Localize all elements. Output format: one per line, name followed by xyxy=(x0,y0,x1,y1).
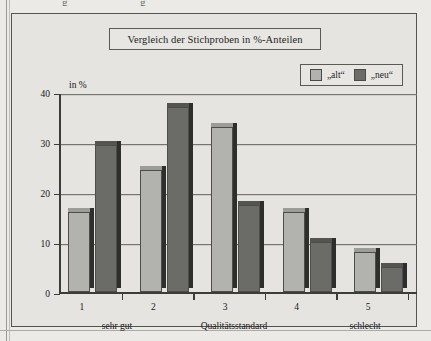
clipped-glyph-1: g xyxy=(62,0,68,6)
ytick-label-10: 10 xyxy=(41,239,51,249)
bar-front-face xyxy=(354,252,376,292)
bar-group xyxy=(68,92,121,292)
legend-label-alt: „alt“ xyxy=(327,70,345,80)
bar-front-face xyxy=(140,170,162,293)
chart-title-box: Vergleich der Stichproben in %-Anteilen xyxy=(109,28,321,50)
bar-alt-2[interactable] xyxy=(140,166,166,293)
xtick-label-2: 2 xyxy=(151,302,156,312)
bar-side-face xyxy=(305,208,309,288)
clipped-text-above: g g xyxy=(0,0,431,6)
bar-side-face xyxy=(162,166,166,289)
bar-group xyxy=(283,92,336,292)
bar-front-face xyxy=(167,107,189,292)
clipped-glyph-2: g xyxy=(140,0,146,6)
legend-swatch-neu-icon xyxy=(354,69,366,81)
bar-front-face xyxy=(283,212,305,292)
ytick-label-0: 0 xyxy=(45,289,50,299)
xtick-label-1: 1 xyxy=(79,302,84,312)
x-caption-right: schlecht xyxy=(349,321,380,331)
x-caption-left: sehr gut xyxy=(102,321,132,331)
bar-group xyxy=(354,92,407,292)
bar-front-face xyxy=(68,212,90,292)
bar-group xyxy=(211,92,264,292)
bar-front-face xyxy=(381,267,403,292)
bar-front-face xyxy=(95,145,117,293)
xtick-label-5: 5 xyxy=(366,302,371,312)
bar-neu-1[interactable] xyxy=(95,141,121,293)
bar-neu-5[interactable] xyxy=(381,263,407,292)
page-margin-rule xyxy=(6,0,7,341)
ytick-mark-0 xyxy=(54,294,60,295)
bar-alt-5[interactable] xyxy=(354,248,380,292)
plot-area: in % 40 30 20 10 0 xyxy=(59,94,417,294)
y-axis-caption: in % xyxy=(69,80,87,90)
x-axis-line xyxy=(59,292,417,294)
bar-side-face xyxy=(332,238,336,288)
bar-neu-2[interactable] xyxy=(167,103,193,292)
ytick-label-20: 20 xyxy=(41,189,51,199)
bar-group xyxy=(140,92,193,292)
bar-alt-3[interactable] xyxy=(211,123,237,292)
xtick-mark-2 xyxy=(193,294,194,300)
legend-item-alt[interactable]: „alt“ xyxy=(310,69,345,81)
bar-front-face xyxy=(310,242,332,292)
bar-side-face xyxy=(376,248,380,288)
ytick-label-40: 40 xyxy=(41,89,51,99)
bars-layer xyxy=(59,94,417,294)
bar-alt-1[interactable] xyxy=(68,208,94,292)
bar-alt-4[interactable] xyxy=(283,208,309,292)
bar-side-face xyxy=(233,123,237,288)
bar-front-face xyxy=(211,127,233,292)
legend-label-neu: „neu“ xyxy=(371,70,393,80)
chart-frame: Vergleich der Stichproben in %-Anteilen … xyxy=(11,13,417,327)
bar-front-face xyxy=(238,205,260,293)
xtick-mark-5 xyxy=(408,294,409,300)
page-margin-rule-secondary xyxy=(9,0,10,341)
legend-swatch-alt-icon xyxy=(310,69,322,81)
xtick-label-3: 3 xyxy=(223,302,228,312)
bar-side-face xyxy=(189,103,193,288)
bar-side-face xyxy=(90,208,94,288)
xtick-mark-3 xyxy=(265,294,266,300)
y-axis-line xyxy=(59,94,61,294)
xtick-mark-4 xyxy=(336,294,337,300)
chart-legend: „alt“ „neu“ xyxy=(300,64,403,86)
xtick-mark-1 xyxy=(122,294,123,300)
ytick-label-30: 30 xyxy=(41,139,51,149)
x-caption-center: Qualitätsstandard xyxy=(201,321,267,331)
legend-item-neu[interactable]: „neu“ xyxy=(354,69,393,81)
bar-side-face xyxy=(260,201,264,289)
bar-neu-3[interactable] xyxy=(238,201,264,293)
bar-neu-4[interactable] xyxy=(310,238,336,292)
chart-title: Vergleich der Stichproben in %-Anteilen xyxy=(127,34,302,45)
bar-side-face xyxy=(117,141,121,289)
bar-side-face xyxy=(403,263,407,288)
xtick-label-4: 4 xyxy=(294,302,299,312)
